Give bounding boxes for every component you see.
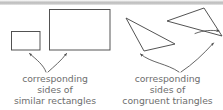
arrow-to-left-triangle-icon <box>141 54 180 72</box>
caption-left-line-3: similar rectangles <box>0 95 110 106</box>
caption-similar-rectangles: corresponding sides of similar rectangle… <box>0 73 110 107</box>
right-triangle <box>167 8 222 36</box>
caption-left-line-2: sides of <box>0 84 110 95</box>
caption-left-line-1: corresponding <box>0 73 110 84</box>
caption-right-line-2: sides of <box>112 84 223 95</box>
left-triangle <box>126 18 175 51</box>
caption-right-line-1: corresponding <box>112 73 223 84</box>
arrow-to-right-triangle-icon <box>181 43 214 72</box>
caption-congruent-triangles: corresponding sides of congruent triangl… <box>112 73 223 107</box>
geometry-figure: corresponding sides of similar rectangle… <box>0 0 223 110</box>
large-rectangle <box>50 10 111 51</box>
caption-right-line-3: congruent triangles <box>112 95 223 106</box>
arrow-to-small-rectangle-icon <box>30 54 47 73</box>
arrow-to-large-rectangle-icon <box>48 54 67 73</box>
small-rectangle <box>12 32 41 51</box>
